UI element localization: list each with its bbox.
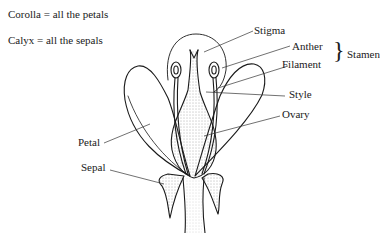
label-anther: Anther: [292, 40, 323, 52]
stem-left-edge: [183, 178, 185, 233]
anther-right: [209, 62, 219, 78]
stem-right-edge: [203, 178, 205, 233]
label-style: Style: [289, 88, 312, 100]
anther-left: [171, 62, 181, 78]
label-ovary: Ovary: [282, 108, 310, 120]
sepal-right: [202, 173, 223, 214]
sepal-left: [159, 174, 184, 218]
label-petal: Petal: [78, 136, 100, 148]
label-filament: Filament: [282, 58, 321, 70]
stamen-brace: }: [333, 38, 345, 62]
label-stamen: Stamen: [347, 48, 380, 60]
label-sepal: Sepal: [81, 161, 105, 173]
label-stigma: Stigma: [254, 24, 285, 36]
